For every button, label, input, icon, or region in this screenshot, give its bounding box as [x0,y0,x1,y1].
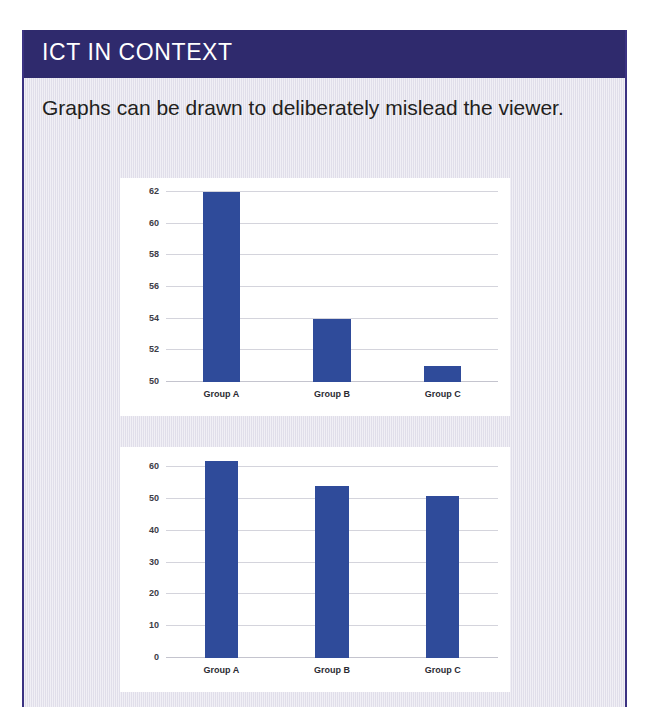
y-axis-tick-label: 56 [149,281,159,291]
y-axis-tick-label: 60 [149,218,159,228]
x-axis-category-label: Group B [314,389,350,399]
chart-card-full-scale: 0102030405060Group AGroup BGroup C [120,447,510,692]
y-axis-tick-label: 54 [149,313,159,323]
chart-card-truncated-axis: 50525456586062Group AGroup BGroup C [120,178,510,416]
bar-group-b [313,319,351,382]
y-axis-tick-label: 40 [149,525,159,535]
plot-area: 0102030405060Group AGroup BGroup C [166,461,498,658]
y-axis-tick-label: 58 [149,249,159,259]
y-axis-tick-label: 20 [149,588,159,598]
bar-chart-truncated-axis: 50525456586062Group AGroup BGroup C [120,178,510,416]
y-axis-tick-label: 0 [154,652,159,662]
page-title: ICT IN CONTEXT [42,39,233,66]
intro-paragraph: Graphs can be drawn to deliberately misl… [42,92,582,123]
y-axis-tick-label: 62 [149,186,159,196]
bar-group-c [424,366,462,382]
bar-group-b [315,486,348,658]
ict-in-context-box: ICT IN CONTEXT Graphs can be drawn to de… [22,30,627,707]
plot-area: 50525456586062Group AGroup BGroup C [166,192,498,382]
x-axis-category-label: Group B [314,665,350,675]
x-axis-category-label: Group C [425,389,461,399]
x-axis-category-label: Group A [203,389,239,399]
bar-group-a [203,192,241,382]
y-axis-tick-label: 52 [149,344,159,354]
bar-group-a [205,461,238,658]
bar-group-c [426,496,459,658]
box-header-band: ICT IN CONTEXT [24,30,625,78]
y-axis-tick-label: 50 [149,376,159,386]
y-axis-tick-label: 50 [149,493,159,503]
y-axis-tick-label: 30 [149,557,159,567]
x-axis-category-label: Group C [425,665,461,675]
x-axis-category-label: Group A [203,665,239,675]
y-axis-tick-label: 10 [149,620,159,630]
y-axis-tick-label: 60 [149,461,159,471]
bar-chart-full-scale: 0102030405060Group AGroup BGroup C [120,447,510,692]
